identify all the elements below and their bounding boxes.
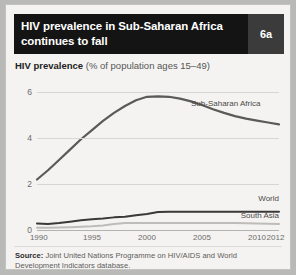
x-axis-tick-2000: 2000 [138, 233, 156, 242]
y-axis-tick-2: 2 [27, 179, 32, 189]
gridline-y-6 [37, 92, 279, 93]
source-label: Source: [15, 251, 43, 260]
y-axis-tick-6: 6 [27, 87, 32, 97]
x-axis-tick-2005: 2005 [193, 233, 211, 242]
gridline-y-4 [37, 138, 279, 139]
chart-subtitle: HIV prevalence (% of population ages 15–… [15, 60, 210, 71]
gridline-y-2 [37, 184, 279, 185]
figure-title: HIV prevalence in Sub-Saharan Africa con… [14, 14, 248, 54]
chart-source: Source: Joint United Nations Programme o… [15, 251, 283, 270]
chart-subtitle-units: (% of population ages 15–49) [83, 60, 210, 71]
figure-title-line-1: HIV prevalence in Sub-Saharan Africa [21, 20, 223, 32]
chart-plot: 0246199019952000200520102012Sub-Saharan … [15, 75, 283, 230]
x-axis-tick-1990: 1990 [30, 233, 48, 242]
figure-header: HIV prevalence in Sub-Saharan Africa con… [14, 14, 284, 54]
series-label-world: World [258, 194, 279, 203]
source-divider [14, 246, 282, 247]
x-axis-tick-1995: 1995 [83, 233, 101, 242]
gridline-y-0 [37, 230, 279, 231]
y-axis-tick-4: 4 [27, 133, 32, 143]
source-text: Joint United Nations Programme on HIV/AI… [15, 251, 237, 270]
x-axis-tick-2012: 2012 [267, 233, 285, 242]
figure-card: HIV prevalence in Sub-Saharan Africa con… [5, 4, 291, 270]
figure-title-line-2: continues to fall [21, 34, 242, 49]
chart-plot-area: 0246199019952000200520102012Sub-Saharan … [37, 83, 279, 230]
x-axis-tick-2010: 2010 [248, 233, 266, 242]
series-label-sub-saharan-africa: Sub-Saharan Africa [191, 99, 260, 108]
figure-number-badge: 6a [248, 14, 284, 54]
figure-number-label: 6a [260, 28, 272, 40]
series-label-south-asia: South Asia [241, 211, 279, 220]
chart-subtitle-strong: HIV prevalence [15, 60, 83, 71]
series-line-south-asia [37, 223, 279, 228]
